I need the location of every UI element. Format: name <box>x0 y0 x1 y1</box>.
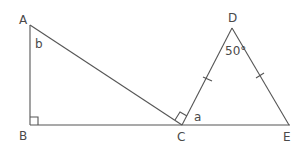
angle-label-d: 50° <box>225 44 246 58</box>
point-label-c: C <box>177 130 185 144</box>
segment-ac <box>30 25 182 125</box>
segment-de <box>232 28 289 125</box>
point-label-d: D <box>228 11 237 25</box>
point-label-a: A <box>19 13 28 27</box>
diagram-canvas: A B C D E b a 50° <box>0 0 306 151</box>
angle-label-b: b <box>35 37 43 51</box>
tick-mark-de <box>256 73 264 78</box>
segment-cd <box>182 28 232 125</box>
right-angle-marker-b <box>30 117 38 125</box>
geometry-diagram: A B C D E b a 50° <box>0 0 306 151</box>
point-label-e: E <box>283 130 291 144</box>
tick-mark-cd <box>203 77 212 81</box>
point-label-b: B <box>19 129 27 143</box>
angle-label-a: a <box>194 110 201 124</box>
